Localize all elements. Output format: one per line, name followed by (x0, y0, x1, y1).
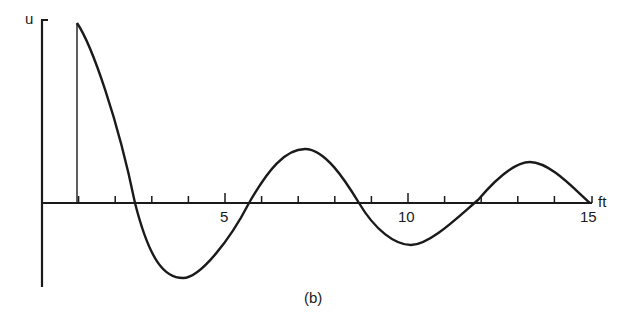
x-tick-label-10: 10 (398, 208, 415, 225)
x-tick-label-15: 15 (580, 208, 597, 225)
response-curve (77, 23, 590, 278)
figure-caption: (b) (304, 289, 322, 306)
y-axis-label: u (25, 10, 33, 27)
x-tick-label-5: 5 (220, 208, 228, 225)
x-axis-label: ft (598, 193, 607, 210)
chart-canvas: u ft 5 10 15 (b) (0, 0, 631, 325)
